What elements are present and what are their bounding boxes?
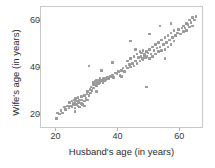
data-point [153,49,156,52]
data-point [55,117,58,120]
data-point [120,75,123,78]
data-point [164,36,167,39]
data-point [95,90,98,93]
data-point [181,27,184,30]
data-point [171,36,174,39]
y-tick-label: 40 [30,62,40,72]
data-point [159,25,162,28]
data-point [68,107,71,110]
data-point [136,53,139,56]
data-point [83,105,86,108]
data-point [129,57,132,60]
x-tick-label: 20 [50,131,60,141]
data-point [195,15,198,18]
data-point [170,22,173,25]
data-point [151,46,154,49]
data-point [148,48,151,51]
data-point [111,61,114,64]
data-point [167,34,170,37]
data-point [151,55,154,58]
data-point [170,32,173,35]
y-axis-title: Wife's age (in years) [10,12,21,134]
data-point [64,108,67,111]
data-point [133,65,136,68]
data-point [193,19,196,22]
data-point [74,107,77,110]
data-point [165,41,168,44]
data-point [126,60,129,63]
data-point [86,99,89,102]
data-point [160,49,163,52]
data-point [177,28,180,31]
data-point [100,69,103,72]
data-point [136,62,139,65]
data-point [148,33,151,36]
data-point [95,85,98,88]
data-point [89,92,92,95]
data-point [78,106,81,109]
data-point [190,21,193,24]
scatter-plot-figure: 204060 204060 Husband's age (in years) W… [0,0,215,168]
data-point [116,73,119,76]
plot-area [40,6,203,128]
data-point [162,43,165,46]
data-point [145,86,148,89]
x-tick-label: 40 [112,131,122,141]
data-point [168,39,171,42]
data-point [129,40,132,43]
data-point [61,112,64,115]
y-tick-label: 60 [30,15,40,25]
y-tick-label: 20 [30,109,40,119]
data-point [179,33,182,36]
data-point [154,43,157,46]
data-point [148,57,151,60]
data-point [123,70,126,73]
data-point [164,57,167,60]
data-point [160,39,163,42]
data-point [157,41,160,44]
data-point [134,48,137,51]
data-point [108,77,111,80]
data-point [74,110,77,113]
data-point [173,40,176,43]
data-point [142,59,145,62]
data-points-layer [41,7,202,127]
data-point [88,94,91,97]
data-point [164,48,167,51]
data-point [147,52,150,55]
data-point [71,106,74,109]
data-point [174,34,177,37]
data-point [170,43,173,46]
data-point [154,53,157,56]
data-point [159,46,162,49]
x-axis-title: Husband's age (in years) [40,146,203,157]
data-point [191,25,194,28]
data-point [88,65,91,68]
data-point [112,76,115,79]
x-tick-label: 60 [174,131,184,141]
data-point [129,66,132,69]
data-point [139,60,142,63]
data-point [167,46,170,49]
data-point [133,55,136,58]
data-point [91,89,94,92]
data-point [185,29,188,32]
